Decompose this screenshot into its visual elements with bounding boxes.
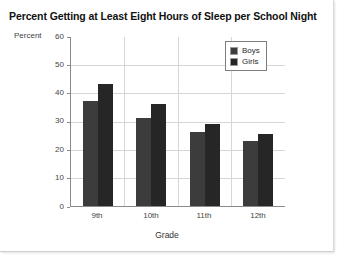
bar-girls-12th	[258, 134, 273, 206]
legend-item-boys: Boys	[230, 45, 260, 56]
y-tick-50: 50	[40, 61, 64, 69]
y-axis-label: Percent	[14, 31, 42, 40]
x-tick-11th: 11th	[177, 211, 231, 220]
chart-legend: Boys Girls	[225, 41, 267, 71]
legend-swatch-girls-icon	[230, 58, 238, 66]
bar-boys-12th	[243, 141, 258, 206]
y-tick-20: 20	[40, 146, 64, 154]
chart-card: Percent Getting at Least Eight Hours of …	[0, 0, 334, 252]
x-tick-12th: 12th	[231, 211, 285, 220]
bar-group-10th	[125, 37, 179, 206]
tickmark-0	[67, 207, 70, 208]
y-tick-0: 0	[40, 203, 64, 211]
legend-label-girls: Girls	[242, 57, 258, 67]
y-tick-10: 10	[40, 174, 64, 182]
bar-girls-10th	[151, 104, 166, 206]
bar-boys-11th	[190, 132, 205, 206]
bar-group-11th	[178, 37, 232, 206]
bar-girls-9th	[98, 84, 113, 206]
bar-boys-10th	[136, 118, 151, 206]
x-tick-9th: 9th	[70, 211, 124, 220]
y-tick-60: 60	[40, 33, 64, 41]
y-tick-40: 40	[40, 89, 64, 97]
x-axis-label: Grade	[0, 230, 334, 240]
bar-girls-11th	[205, 124, 220, 206]
legend-swatch-boys-icon	[230, 47, 238, 55]
x-tick-10th: 10th	[124, 211, 178, 220]
y-tick-30: 30	[40, 117, 64, 125]
legend-label-boys: Boys	[242, 46, 260, 56]
chart-title: Percent Getting at Least Eight Hours of …	[9, 10, 317, 22]
bar-group-9th	[71, 37, 125, 206]
bar-boys-9th	[83, 101, 98, 206]
legend-item-girls: Girls	[230, 56, 260, 67]
